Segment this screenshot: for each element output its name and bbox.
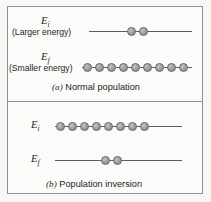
atom-dot [128,122,137,131]
panel-a-level-Ef-note: (Smaller energy) [9,63,73,73]
atom-dot [140,122,149,131]
atom-dot [80,122,89,131]
atom-dot [92,122,101,131]
atom-dot [116,122,125,131]
panel-b-caption-tag: (b) [46,179,57,189]
panel-divider [7,101,203,102]
atom-dot [119,63,128,72]
atom-dot [143,63,152,72]
panel-b-Ei-subscript: i [37,124,39,133]
panel-b-Ef-subscript: f [37,158,39,167]
atom-dot [83,63,92,72]
atom-dot [155,63,164,72]
energy-level-figure: Ei (Larger energy) Ef (Smaller energy) [0,0,211,202]
atom-dot [179,63,188,72]
panel-a-level-Ef-dots [83,63,188,72]
atom-dot [113,156,122,165]
panel-a-caption-tag: (a) [52,82,63,92]
atom-dot [131,63,140,72]
panel-b-level-Ef-dots [101,156,122,165]
panel-b-level-Ef-label: Ef [31,153,40,167]
panel-b-level-Ei-label: Ei [31,119,40,133]
atom-dot [56,122,65,131]
panel-a-level-Ei-note: (Larger energy) [12,27,71,37]
panel-b-caption: (b) Population inversion [46,179,142,189]
atom-dot [104,122,113,131]
panel-a-caption-text: Normal population [65,82,140,92]
panel-b-caption-text: Population inversion [59,179,142,189]
panel-a-caption: (a) Normal population [52,82,140,92]
atom-dot [95,63,104,72]
atom-dot [107,63,116,72]
atom-dot [101,156,110,165]
panel-b-level-Ei-dots [56,122,149,131]
atom-dot [167,63,176,72]
atom-dot [139,27,148,36]
panel-a-level-Ei-dots [127,27,148,36]
atom-dot [68,122,77,131]
atom-dot [127,27,136,36]
